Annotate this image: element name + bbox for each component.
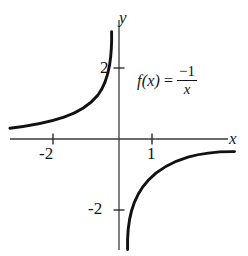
- curve-branch-upper-left: [10, 32, 112, 128]
- curve-branch-lower-right: [128, 152, 235, 250]
- graph-canvas: [0, 0, 248, 256]
- function-graph-figure: y x -2 1 2 -2 f(x) = −1 x: [0, 0, 248, 256]
